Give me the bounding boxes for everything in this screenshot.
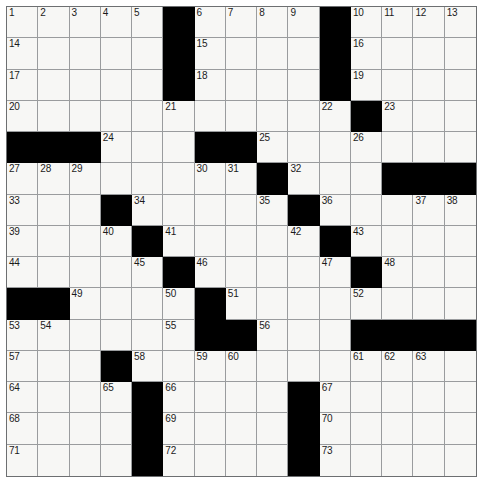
grid-cell-open[interactable] <box>257 101 288 132</box>
grid-cell-open[interactable] <box>132 70 163 101</box>
grid-cell-open[interactable]: 21 <box>163 101 194 132</box>
grid-cell-open[interactable] <box>38 70 69 101</box>
grid-cell-open[interactable] <box>445 288 476 319</box>
grid-cell-open[interactable]: 33 <box>7 195 38 226</box>
grid-cell-open[interactable] <box>413 413 444 444</box>
grid-cell-open[interactable] <box>195 101 226 132</box>
grid-cell-open[interactable]: 23 <box>382 101 413 132</box>
grid-cell-open[interactable] <box>132 163 163 194</box>
grid-cell-open[interactable] <box>38 445 69 476</box>
grid-cell-open[interactable]: 32 <box>288 163 319 194</box>
grid-cell-open[interactable]: 42 <box>288 226 319 257</box>
grid-cell-open[interactable] <box>70 38 101 69</box>
grid-cell-open[interactable] <box>445 351 476 382</box>
grid-cell-open[interactable]: 50 <box>163 288 194 319</box>
grid-cell-open[interactable]: 49 <box>70 288 101 319</box>
grid-cell-open[interactable] <box>257 413 288 444</box>
grid-cell-open[interactable]: 3 <box>70 7 101 38</box>
grid-cell-open[interactable]: 13 <box>445 7 476 38</box>
grid-cell-open[interactable] <box>101 445 132 476</box>
grid-cell-open[interactable]: 60 <box>226 351 257 382</box>
grid-cell-open[interactable] <box>413 101 444 132</box>
grid-cell-open[interactable]: 36 <box>320 195 351 226</box>
grid-cell-open[interactable]: 68 <box>7 413 38 444</box>
grid-cell-open[interactable] <box>445 38 476 69</box>
grid-cell-open[interactable] <box>413 288 444 319</box>
grid-cell-open[interactable] <box>226 38 257 69</box>
grid-cell-open[interactable] <box>101 320 132 351</box>
grid-cell-open[interactable] <box>132 320 163 351</box>
grid-cell-open[interactable] <box>351 413 382 444</box>
grid-cell-open[interactable]: 26 <box>351 132 382 163</box>
grid-cell-open[interactable]: 47 <box>320 257 351 288</box>
grid-cell-open[interactable] <box>70 70 101 101</box>
grid-cell-open[interactable]: 37 <box>413 195 444 226</box>
grid-cell-open[interactable] <box>382 38 413 69</box>
grid-cell-open[interactable] <box>226 101 257 132</box>
grid-cell-open[interactable]: 43 <box>351 226 382 257</box>
grid-cell-open[interactable]: 52 <box>351 288 382 319</box>
grid-cell-open[interactable]: 70 <box>320 413 351 444</box>
grid-cell-open[interactable] <box>445 257 476 288</box>
grid-cell-open[interactable] <box>70 413 101 444</box>
grid-cell-open[interactable]: 12 <box>413 7 444 38</box>
grid-cell-open[interactable] <box>320 132 351 163</box>
grid-cell-open[interactable]: 25 <box>257 132 288 163</box>
grid-cell-open[interactable] <box>257 445 288 476</box>
grid-cell-open[interactable] <box>288 132 319 163</box>
grid-cell-open[interactable] <box>445 445 476 476</box>
grid-cell-open[interactable] <box>413 70 444 101</box>
grid-cell-open[interactable] <box>101 70 132 101</box>
grid-cell-open[interactable]: 34 <box>132 195 163 226</box>
grid-cell-open[interactable] <box>288 257 319 288</box>
grid-cell-open[interactable]: 20 <box>7 101 38 132</box>
grid-cell-open[interactable] <box>70 320 101 351</box>
grid-cell-open[interactable] <box>257 38 288 69</box>
grid-cell-open[interactable] <box>351 195 382 226</box>
grid-cell-open[interactable] <box>226 195 257 226</box>
grid-cell-open[interactable] <box>195 445 226 476</box>
grid-cell-open[interactable]: 9 <box>288 7 319 38</box>
grid-cell-open[interactable] <box>101 288 132 319</box>
grid-cell-open[interactable] <box>413 445 444 476</box>
grid-cell-open[interactable] <box>351 445 382 476</box>
grid-cell-open[interactable]: 66 <box>163 382 194 413</box>
grid-cell-open[interactable] <box>445 413 476 444</box>
grid-cell-open[interactable]: 44 <box>7 257 38 288</box>
grid-cell-open[interactable]: 40 <box>101 226 132 257</box>
grid-cell-open[interactable] <box>445 226 476 257</box>
grid-cell-open[interactable]: 7 <box>226 7 257 38</box>
grid-cell-open[interactable] <box>288 70 319 101</box>
grid-cell-open[interactable]: 41 <box>163 226 194 257</box>
grid-cell-open[interactable] <box>132 38 163 69</box>
grid-cell-open[interactable] <box>320 351 351 382</box>
grid-cell-open[interactable]: 22 <box>320 101 351 132</box>
grid-cell-open[interactable]: 4 <box>101 7 132 38</box>
grid-cell-open[interactable] <box>445 70 476 101</box>
grid-cell-open[interactable] <box>38 257 69 288</box>
grid-cell-open[interactable]: 16 <box>351 38 382 69</box>
grid-cell-open[interactable] <box>413 38 444 69</box>
grid-cell-open[interactable]: 56 <box>257 320 288 351</box>
grid-cell-open[interactable] <box>101 101 132 132</box>
grid-cell-open[interactable] <box>257 226 288 257</box>
grid-cell-open[interactable]: 31 <box>226 163 257 194</box>
grid-cell-open[interactable] <box>257 70 288 101</box>
grid-cell-open[interactable] <box>38 382 69 413</box>
grid-cell-open[interactable]: 57 <box>7 351 38 382</box>
grid-cell-open[interactable]: 2 <box>38 7 69 38</box>
grid-cell-open[interactable] <box>382 195 413 226</box>
grid-cell-open[interactable] <box>382 132 413 163</box>
grid-cell-open[interactable]: 45 <box>132 257 163 288</box>
grid-cell-open[interactable] <box>38 351 69 382</box>
grid-cell-open[interactable] <box>413 257 444 288</box>
grid-cell-open[interactable] <box>101 413 132 444</box>
grid-cell-open[interactable] <box>351 382 382 413</box>
grid-cell-open[interactable] <box>257 382 288 413</box>
grid-cell-open[interactable]: 14 <box>7 38 38 69</box>
grid-cell-open[interactable] <box>288 288 319 319</box>
grid-cell-open[interactable] <box>226 226 257 257</box>
grid-cell-open[interactable]: 73 <box>320 445 351 476</box>
grid-cell-open[interactable]: 65 <box>101 382 132 413</box>
grid-cell-open[interactable] <box>288 320 319 351</box>
